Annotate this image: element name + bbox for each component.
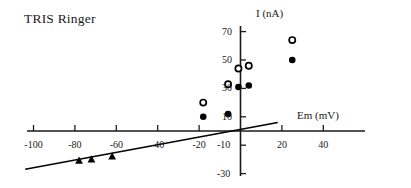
data-point-open-circle <box>246 63 252 69</box>
y-tick-label: -10 <box>217 140 230 150</box>
data-point-filled-circle <box>200 114 207 121</box>
y-tick-label: 10 <box>222 112 232 122</box>
x-tick-label: -100 <box>23 140 45 150</box>
y-tick-label: -30 <box>217 169 230 179</box>
data-point-filled-circle <box>289 57 296 64</box>
tick-marks <box>34 32 324 174</box>
data-point-filled-circle <box>235 84 242 91</box>
y-tick-label: 50 <box>222 55 232 65</box>
data-point-open-circle <box>289 37 295 43</box>
x-tick-label: 20 <box>271 140 293 150</box>
x-tick-label: -20 <box>188 140 210 150</box>
y-tick-label: 70 <box>222 27 232 37</box>
y-tick-label: 30 <box>222 83 232 93</box>
x-tick-label: -60 <box>105 140 127 150</box>
data-point-filled-circle <box>245 82 252 89</box>
data-point-open-circle <box>235 65 241 71</box>
x-tick-label: -80 <box>64 140 86 150</box>
x-tick-label: 40 <box>312 140 334 150</box>
plot-area <box>0 0 411 188</box>
x-tick-label: -40 <box>147 140 169 150</box>
chart-figure: TRIS Ringer I (nA) Em (mV) -100-80-60-40… <box>0 0 411 188</box>
axis-lines <box>27 26 365 176</box>
data-point-open-circle <box>200 100 206 106</box>
